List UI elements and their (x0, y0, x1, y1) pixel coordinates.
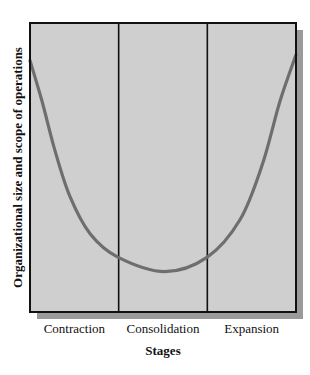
stage-labels: ContractionConsolidationExpansion (44, 321, 280, 336)
stage-label-consolidation: Consolidation (127, 321, 200, 336)
y-axis-title: Organizational size and scope of operati… (10, 47, 25, 288)
plot-background (30, 23, 296, 312)
stage-label-expansion: Expansion (224, 321, 279, 336)
stages-chart: ContractionConsolidationExpansion Stages… (0, 0, 310, 375)
stage-label-contraction: Contraction (44, 321, 106, 336)
x-axis-title: Stages (145, 343, 180, 358)
